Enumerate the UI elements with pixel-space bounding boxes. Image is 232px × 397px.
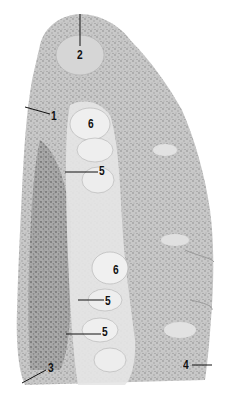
label-4: 4: [183, 359, 189, 371]
label-1: 1: [51, 110, 57, 122]
label-2: 2: [77, 49, 83, 61]
label-3: 3: [48, 362, 54, 374]
label-5-upper: 5: [99, 165, 105, 177]
label-5-lower: 5: [102, 326, 108, 338]
tissue-section-image: [0, 0, 232, 397]
histology-figure: 2 1 6 5 6 5 5 3 4: [0, 0, 232, 397]
label-6-lower: 6: [113, 264, 119, 276]
label-6-upper: 6: [88, 118, 94, 130]
label-5-middle: 5: [105, 295, 111, 307]
